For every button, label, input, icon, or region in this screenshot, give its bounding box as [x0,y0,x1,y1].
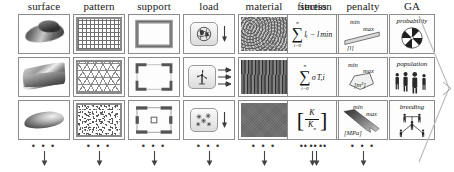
pattern-thumb-1[interactable] [73,14,125,54]
column-arrow-support [128,150,180,166]
summation-expression-1: n ∑ i=0 lᵢ − lmin [292,26,333,42]
right-arrows-icon [218,66,231,88]
pipeline-bracket [418,14,454,164]
column-arrow-pattern [73,150,125,166]
point-support-icon [131,103,177,137]
surface-thumb-1[interactable] [18,14,70,54]
column-load: load [183,0,235,166]
pattern-thumb-2[interactable] [73,57,125,97]
penalty-unit-1: [l] [347,44,354,51]
pentagon-panel-icon [341,60,385,94]
material-thumb-2[interactable] [238,57,290,97]
fitness-term-2-sub: T,i [317,73,325,82]
bracket-right: ] [320,109,327,131]
fitness-term-1-sub: min [320,30,332,39]
load-thumb-1[interactable] [183,14,235,54]
load-thumb-3[interactable] [183,100,235,140]
fraction-expression-3: [ K Kn ] [297,109,328,131]
sum-upper-limit: n [304,63,307,68]
column-header-penalty: penalty [338,0,388,14]
column-arrow-penalty [338,150,388,166]
column-ellipsis-material: • • • [238,143,290,150]
column-header-surface: surface [18,0,70,14]
column-arrow-fitness [287,150,337,166]
column-penalty: penalty min max [l] min max [m²] [338,0,388,166]
column-header-ga: GA [389,0,435,14]
column-ellipsis-load: • • • [183,143,235,150]
down-arrow-icon [358,151,369,166]
column-header-material: material [238,0,290,14]
support-thumb-3[interactable] [128,100,180,140]
column-arrow-material [238,150,290,166]
fitness-formula-3[interactable]: [ K Kn ] [287,100,337,140]
column-arrow-surface [18,150,70,166]
support-thumb-2[interactable] [128,57,180,97]
surface-thumb-2[interactable] [18,57,70,97]
column-ellipsis-surface: • • • [18,143,70,150]
column-surface: surface • • • [18,0,70,166]
fitness-formula-1[interactable]: n ∑ i=0 lᵢ − lmin [287,14,337,54]
figure-sheet: surface • • • pattern • • • [0,0,454,172]
column-pattern: pattern • • • [73,0,125,166]
fitness-formula-2[interactable]: n ∑ i=0 σT,i [287,57,337,97]
down-arrow-icon [259,151,270,166]
column-ellipsis-support: • • • [128,143,180,150]
surface-thumb-3[interactable] [18,100,70,140]
snowflake-icon [190,108,218,132]
column-fitness-cells: n ∑ i=0 lᵢ − lmin n ∑ i=0 σT,i [287,14,337,166]
fraction-denominator-sub: n [313,125,316,130]
column-ellipsis-pattern: • • • [73,143,125,150]
load-arrows-2 [218,66,231,88]
sum-lower-limit: i=0 [294,43,301,48]
column-ellipsis-fitness: • • • [287,143,337,150]
down-arrow-icon [204,151,215,166]
globe-icon [190,22,218,46]
load-arrows-1 [220,25,229,43]
down-arrow-icon [307,151,318,166]
penalty-unit-3: [MPa] [344,129,362,136]
penalty-thumb-3[interactable]: min max [MPa] [338,100,388,140]
column-material: material • • • [238,0,290,166]
down-arrow-icon [220,25,229,43]
fraction-numerator: K [309,109,314,117]
fitness-term-1: lᵢ − l [304,30,319,39]
corner-support-icon [131,60,177,94]
perimeter-support-icon [131,17,177,51]
column-header-load: load [183,0,235,14]
sum-lower-limit: i=0 [301,86,308,91]
down-arrow-icon [220,111,229,129]
penalty-unit-2: [m²] [354,81,366,88]
column-header-fitness: fitness [287,0,337,14]
down-arrow-icon [94,151,105,166]
column-support: support [128,0,180,166]
penalty-thumb-1[interactable]: min max [l] [338,14,388,54]
sum-upper-limit: n [296,20,299,25]
column-header-pattern: pattern [73,0,125,14]
fitness-term-2: σ [312,73,316,82]
penalty-thumb-2[interactable]: min max [m²] [338,57,388,97]
right-bracket-icon [418,14,454,164]
pattern-thumb-3[interactable] [73,100,125,140]
down-arrow-icon [39,151,50,166]
column-header-support: support [128,0,180,14]
support-thumb-1[interactable] [128,14,180,54]
down-arrow-icon [149,151,160,166]
material-thumb-3[interactable] [238,100,290,140]
load-arrows-3 [220,111,229,129]
material-thumb-1[interactable] [238,14,290,54]
column-ellipsis-penalty: • • • [338,143,388,150]
summation-expression-2: n ∑ i=0 σT,i [299,69,324,85]
column-arrow-load [183,150,235,166]
load-thumb-2[interactable] [183,57,235,97]
bracket-left: [ [297,109,304,131]
wind-turbine-icon [188,65,216,89]
